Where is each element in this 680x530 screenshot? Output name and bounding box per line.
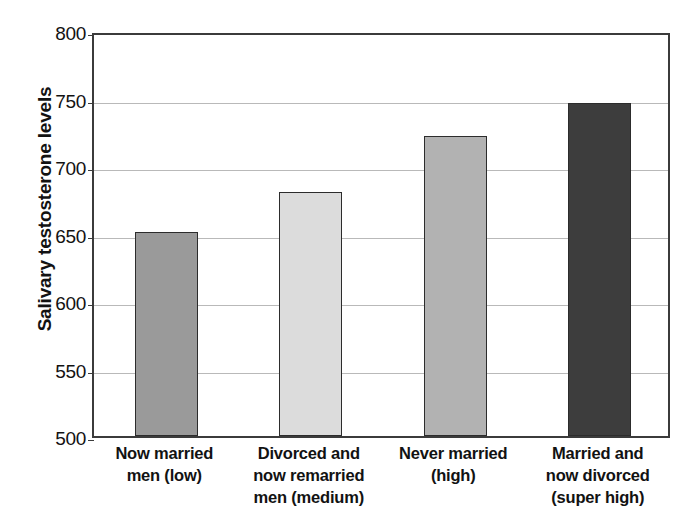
- x-tick-label-line: now divorced: [528, 465, 669, 487]
- bars-group: [94, 35, 668, 436]
- y-tick-label: 550: [34, 361, 86, 380]
- y-tick-mark: [88, 440, 94, 441]
- y-tick-label: 700: [34, 159, 86, 178]
- x-tick-label-line: (super high): [528, 487, 669, 509]
- x-tick-label-line: men (low): [94, 465, 235, 487]
- x-tick-label-line: now remarried: [239, 465, 380, 487]
- y-tick-label: 650: [34, 226, 86, 245]
- bar: [568, 103, 631, 436]
- x-tick-label: Married andnow divorced(super high): [528, 443, 669, 508]
- x-tick-label-line: Married and: [528, 443, 669, 465]
- x-tick-label: Never married(high): [383, 443, 524, 487]
- x-axis-tick-labels: Now marriedmen (low)Divorced andnow rema…: [92, 443, 670, 523]
- plot-area: [92, 33, 670, 438]
- y-tick-label: 500: [34, 429, 86, 448]
- y-tick-label: 750: [34, 91, 86, 110]
- x-tick-label-line: Now married: [94, 443, 235, 465]
- x-tick-label-line: (high): [383, 465, 524, 487]
- y-tick-label: 600: [34, 294, 86, 313]
- y-tick-label: 800: [34, 24, 86, 43]
- bar-chart-figure: Salivary testosterone levels 80075070065…: [0, 0, 680, 530]
- x-tick-label: Now marriedmen (low): [94, 443, 235, 487]
- x-tick-label: Divorced andnow remarriedmen (medium): [239, 443, 380, 508]
- bar: [424, 136, 487, 436]
- x-tick-label-line: Never married: [383, 443, 524, 465]
- x-tick-label-line: Divorced and: [239, 443, 380, 465]
- y-axis-tick-labels: 800750700650600550500: [34, 33, 86, 438]
- bar: [279, 192, 342, 436]
- bar: [135, 232, 198, 436]
- x-tick-label-line: men (medium): [239, 487, 380, 509]
